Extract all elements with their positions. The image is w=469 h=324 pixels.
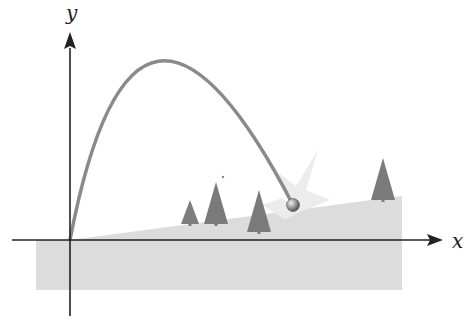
y-axis-arrow-icon xyxy=(64,32,76,49)
small-dot xyxy=(222,176,224,178)
x-axis-label: x xyxy=(452,229,463,253)
ground-slope xyxy=(70,196,402,240)
diagram-canvas: x y xyxy=(0,0,469,324)
ground-base xyxy=(36,240,402,290)
tree-icon xyxy=(204,182,228,226)
tree-icon xyxy=(371,158,395,202)
projectile-ball xyxy=(287,199,300,212)
tree-icon xyxy=(181,200,199,226)
tree-icon xyxy=(247,190,271,234)
y-axis-label: y xyxy=(65,1,78,25)
